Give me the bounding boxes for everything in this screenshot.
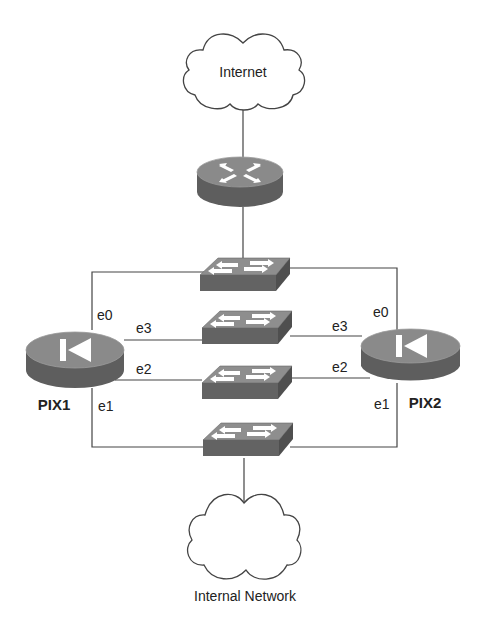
internet-cloud: Internet [183, 34, 304, 110]
link-pix1-e1 [92, 388, 203, 447]
pix2-e2-label: e2 [332, 359, 348, 375]
pix-firewall-icon [26, 332, 124, 388]
link-pix2-e1 [290, 383, 397, 447]
switch-icon [200, 258, 290, 291]
switch-1 [200, 258, 290, 291]
pix1-e1-label: e1 [98, 398, 114, 414]
pix2-label: PIX2 [409, 394, 442, 411]
internal-network-label: Internal Network [194, 588, 297, 604]
switch-4 [203, 423, 293, 456]
switch-icon [202, 366, 292, 399]
network-diagram: Internet [0, 0, 482, 624]
pix-firewall-icon [361, 329, 460, 381]
pix1-label: PIX1 [38, 396, 71, 413]
switch-icon [202, 311, 292, 344]
pix1-e2-label: e2 [136, 361, 152, 377]
pix2-e1-label: e1 [374, 396, 390, 412]
router [197, 157, 283, 207]
internal-network-cloud: Internal Network [188, 494, 301, 604]
router-icon [197, 157, 283, 207]
switch-3 [202, 366, 292, 399]
pix1-e0-label: e0 [97, 307, 113, 323]
cloud-icon [188, 494, 301, 579]
pix1-firewall: PIX1 e0 e3 e2 e1 [26, 307, 152, 414]
pix2-firewall: PIX2 e0 e3 e2 e1 [332, 304, 460, 412]
pix2-e3-label: e3 [332, 318, 348, 334]
switch-2 [202, 311, 292, 344]
pix2-e0-label: e0 [373, 304, 389, 320]
internet-label: Internet [219, 64, 267, 80]
switch-icon [203, 423, 293, 456]
pix1-e3-label: e3 [136, 320, 152, 336]
